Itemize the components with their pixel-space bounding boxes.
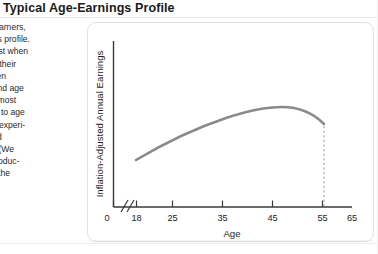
- body-text-line: -earnings profile.: [0, 33, 84, 45]
- body-text-line: ywide produc-: [0, 155, 84, 167]
- body-text-line: nings up to age: [0, 106, 84, 118]
- body-text-line: zero for most: [0, 94, 84, 106]
- body-text-line: uld shift the: [0, 167, 84, 179]
- body-text-line: creased experi-: [0, 119, 84, 131]
- body-text-line: ours, and: [0, 131, 84, 143]
- body-text-line: ent around age: [0, 82, 84, 94]
- body-text-line: hooling. (We: [0, 143, 84, 155]
- title-divider: [0, 17, 378, 18]
- chart-panel: [87, 22, 374, 242]
- body-text-line: l, and then: [0, 70, 84, 82]
- body-text-line: 8, reach their: [0, 58, 84, 70]
- page-bottom-divider: [0, 243, 378, 244]
- body-text-column: ncome earners, -earnings profile. are lo…: [0, 21, 84, 180]
- body-text-line: ncome earners,: [0, 21, 84, 33]
- figure-title: Typical Age-Earnings Profile: [3, 0, 375, 17]
- body-text-line: are lowest when: [0, 45, 84, 57]
